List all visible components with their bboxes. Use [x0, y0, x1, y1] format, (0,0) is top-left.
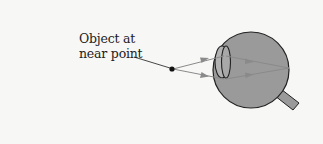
object-dot — [169, 66, 174, 71]
label-line-2: near point — [79, 46, 142, 61]
lens-icon — [222, 46, 231, 78]
label-line-1: Object at — [79, 31, 142, 46]
diagram-canvas: Object at near point — [0, 0, 323, 144]
eye-diagram — [0, 0, 323, 144]
object-label: Object at near point — [79, 31, 142, 61]
